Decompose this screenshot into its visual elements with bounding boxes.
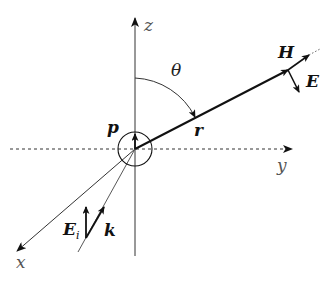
electric-field-E-label: E xyxy=(305,71,320,91)
wave-vector-k-arrow xyxy=(86,207,104,238)
incident-field-Ei-label: Ei xyxy=(62,219,80,242)
H-dotted-extension xyxy=(309,49,320,55)
y-axis-label: y xyxy=(276,155,287,175)
theta-arc xyxy=(135,78,195,117)
incident-field-Ei-main: E xyxy=(62,219,77,239)
incident-field-Ei-subscript: i xyxy=(76,229,80,242)
position-r-label: r xyxy=(194,120,204,140)
x-axis-label: x xyxy=(16,252,26,272)
z-axis-label: z xyxy=(143,15,154,35)
theta-label: θ xyxy=(171,60,181,80)
electric-field-E-arrow xyxy=(288,70,299,92)
wave-vector-k-label: k xyxy=(104,220,116,240)
magnetic-field-H-label: H xyxy=(277,42,295,62)
dipole-diagram: z y x p r θ H E Ei k xyxy=(0,0,327,287)
dipole-p-label: p xyxy=(107,117,119,137)
position-r-vector xyxy=(135,70,288,149)
